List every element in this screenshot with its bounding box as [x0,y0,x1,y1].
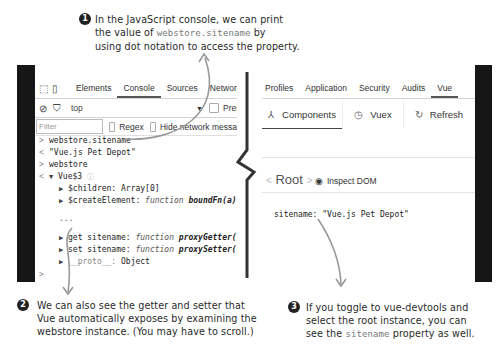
arrow-1-head [199,54,209,62]
annotation-line: We can also see the getter and setter th… [37,299,267,312]
annotation-line: webstore instance. (You may have to scro… [37,325,267,338]
arrow-1 [124,58,210,139]
annotation-2: 2 We can also see the getter and setter … [37,299,267,338]
arrow-2 [67,228,72,292]
annotation-line: If you toggle to vue-devtools and [306,301,503,314]
annotation-line: see the sitename property as well. [306,327,503,341]
arrow-3 [318,219,341,284]
annotation-number: 2 [17,299,29,311]
annotation-3: 3 If you toggle to vue-devtools and sele… [306,301,503,341]
code-sitename: sitename [345,329,389,339]
annotation-line: select the root instance, you can [306,314,503,327]
break-divider [238,72,254,278]
annotation-line: Vue automatically exposes by examining t… [37,312,267,325]
annotation-number: 3 [288,301,300,313]
